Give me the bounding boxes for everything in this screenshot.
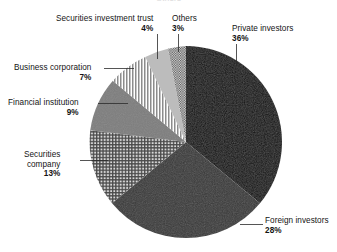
label-percent: 7% bbox=[14, 73, 91, 83]
slice-label-others: Others 3% bbox=[172, 14, 197, 33]
label-percent: 36% bbox=[232, 34, 293, 44]
label-percent: 28% bbox=[265, 226, 329, 236]
label-percent: 9% bbox=[8, 108, 79, 118]
slice-label-business-corporation: Business corporation 7% bbox=[14, 63, 91, 82]
slice-label-foreign-investors: Foreign investors 28% bbox=[265, 216, 329, 235]
label-text-line2: company bbox=[27, 160, 61, 169]
label-text-line1: Securities bbox=[24, 150, 60, 159]
label-text: Financial institution bbox=[8, 98, 79, 107]
label-text: Others bbox=[172, 14, 197, 23]
slice-label-private-investors: Private investors 36% bbox=[232, 24, 293, 43]
slice-label-securities-investment-trust: Securities investment trust 4% bbox=[56, 14, 153, 33]
label-text: Private investors bbox=[232, 24, 293, 33]
label-percent: 4% bbox=[56, 24, 153, 34]
label-percent: 3% bbox=[172, 24, 197, 34]
pie-chart: Others bbox=[0, 0, 337, 252]
slice-label-financial-institution: Financial institution 9% bbox=[8, 98, 79, 117]
label-text: Foreign investors bbox=[265, 216, 329, 225]
label-percent: 13% bbox=[24, 169, 60, 179]
label-text: Business corporation bbox=[14, 63, 91, 72]
label-text: Securities investment trust bbox=[56, 14, 153, 23]
slice-label-securities-company: Securities company 13% bbox=[24, 150, 60, 179]
